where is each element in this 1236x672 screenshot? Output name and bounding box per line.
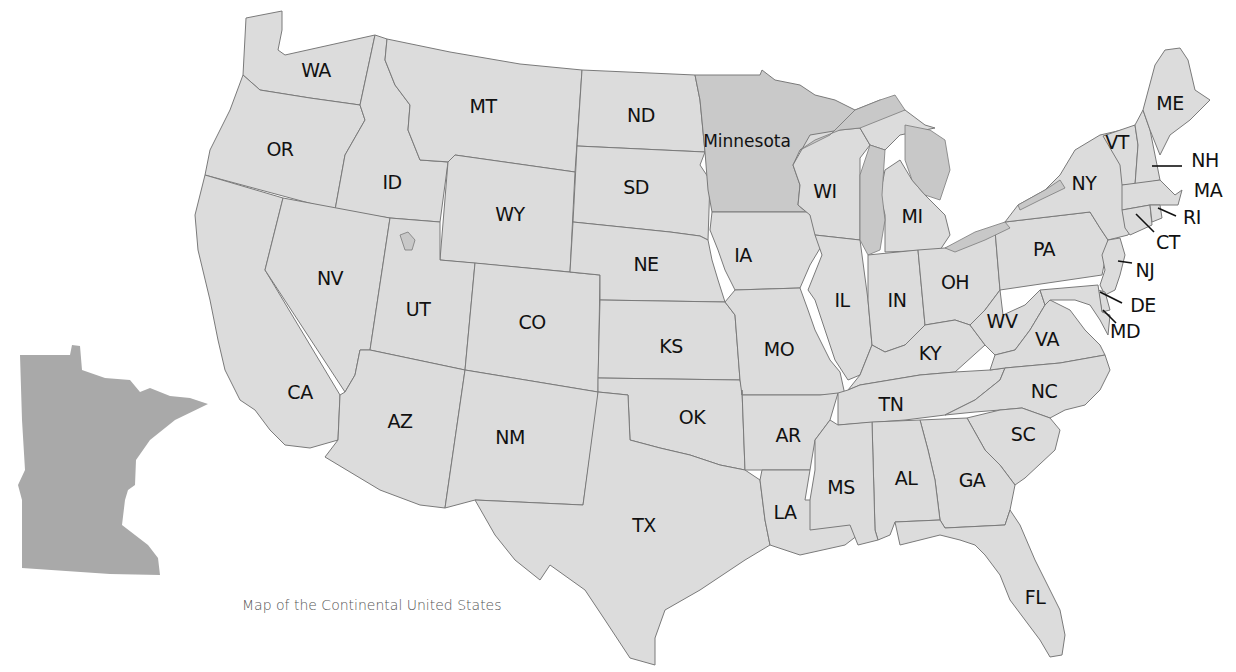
label-az: AZ <box>387 410 412 432</box>
label-nh: NH <box>1191 149 1219 171</box>
label-nd: ND <box>627 104 655 126</box>
label-mo: MO <box>764 338 794 360</box>
label-id: ID <box>382 171 401 193</box>
label-oh: OH <box>941 271 969 293</box>
label-sc: SC <box>1011 423 1035 445</box>
label-nj: NJ <box>1136 259 1155 281</box>
label-ct: CT <box>1156 231 1180 253</box>
label-ar: AR <box>775 424 800 446</box>
state-ia[interactable] <box>710 212 822 290</box>
label-tn: TN <box>879 393 904 415</box>
label-al: AL <box>895 467 918 489</box>
label-ny: NY <box>1072 172 1097 194</box>
label-or: OR <box>266 138 293 160</box>
label-ok: OK <box>679 406 705 428</box>
label-me: ME <box>1156 92 1183 114</box>
label-ms: MS <box>827 476 854 498</box>
label-nv: NV <box>317 267 343 289</box>
label-mn: Minnesota <box>703 131 791 151</box>
label-mt: MT <box>470 95 497 117</box>
label-wv: WV <box>987 310 1018 332</box>
label-de: DE <box>1130 294 1156 316</box>
state-fl[interactable] <box>895 510 1065 657</box>
label-nm: NM <box>495 426 525 448</box>
state-ct[interactable] <box>1122 205 1152 235</box>
label-ri: RI <box>1183 206 1201 228</box>
minnesota-inset-shape <box>18 345 208 575</box>
label-in: IN <box>888 289 907 311</box>
label-pa: PA <box>1033 238 1055 260</box>
label-ut: UT <box>406 298 431 320</box>
label-ga: GA <box>959 469 986 491</box>
label-sd: SD <box>623 176 649 198</box>
lake-michigan <box>860 145 885 255</box>
label-ma: MA <box>1194 179 1222 201</box>
map-caption: Map of the Continental United States <box>242 597 502 613</box>
label-wa: WA <box>301 59 331 81</box>
state-ri[interactable] <box>1150 205 1162 222</box>
label-tx: TX <box>632 514 656 536</box>
label-mi: MI <box>902 205 923 227</box>
label-wy: WY <box>495 203 524 225</box>
label-il: IL <box>834 289 849 311</box>
label-ca: CA <box>287 381 312 403</box>
label-nc: NC <box>1031 380 1057 402</box>
label-wi: WI <box>813 180 836 202</box>
label-ne: NE <box>633 253 658 275</box>
label-la: LA <box>773 501 796 523</box>
label-ks: KS <box>659 335 683 357</box>
label-ky: KY <box>919 342 941 364</box>
label-fl: FL <box>1025 586 1046 608</box>
label-va: VA <box>1035 328 1059 350</box>
label-vt: VT <box>1105 131 1129 153</box>
label-ia: IA <box>734 244 752 266</box>
label-md: MD <box>1110 320 1140 342</box>
label-co: CO <box>518 311 545 333</box>
